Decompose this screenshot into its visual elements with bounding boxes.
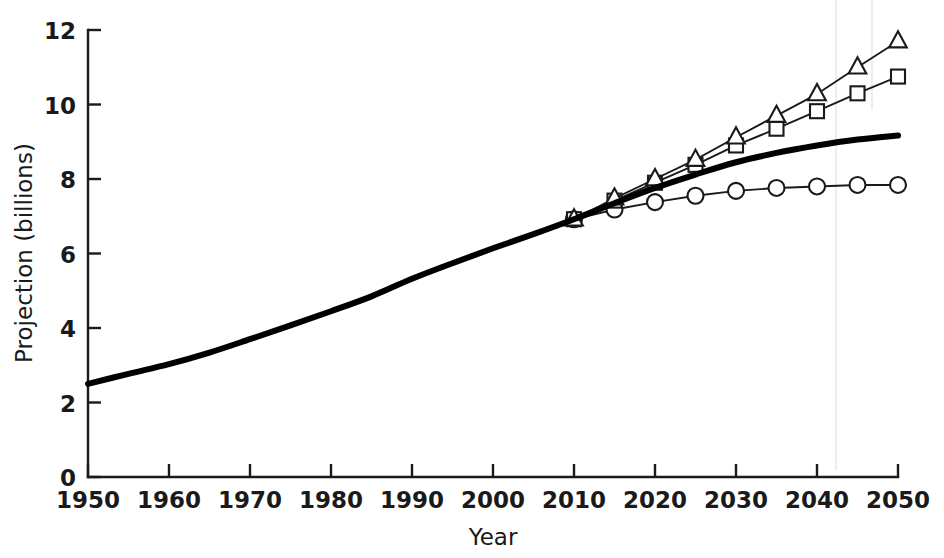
x-tick-label: 2000 <box>461 487 525 513</box>
x-tick-label: 2040 <box>785 487 849 513</box>
x-axis-tick-labels: 1950 1960 1970 1980 1990 2000 2010 2020 … <box>56 487 930 513</box>
data-point-triangle-marker <box>727 127 745 143</box>
data-point-square-marker <box>810 104 824 118</box>
data-point-triangle-marker <box>889 31 907 47</box>
y-tick-label: 12 <box>44 18 76 44</box>
y-tick-label: 4 <box>60 316 76 342</box>
x-tick-label: 2050 <box>866 487 930 513</box>
chart-container: 0 2 4 6 8 10 12 1950 1960 1970 1980 1990… <box>0 0 944 558</box>
axis-lines <box>88 30 898 477</box>
x-tick-label: 2030 <box>704 487 768 513</box>
data-point-circle-marker <box>647 194 663 210</box>
y-tick-label: 6 <box>60 242 76 268</box>
data-point-triangle-marker <box>768 106 786 122</box>
data-point-circle-marker <box>769 180 785 196</box>
data-point-triangle-marker <box>849 57 867 73</box>
x-tick-label: 1960 <box>137 487 201 513</box>
data-point-circle-marker <box>688 188 704 204</box>
y-axis-title: Projection (billions) <box>11 143 37 363</box>
x-tick-label: 2010 <box>542 487 606 513</box>
y-tick-label: 2 <box>60 391 76 417</box>
data-point-triangle-marker <box>808 84 826 100</box>
x-tick-label: 1950 <box>56 487 120 513</box>
data-point-circle-marker <box>890 177 906 193</box>
data-point-square-marker <box>851 86 865 100</box>
y-tick-label: 8 <box>60 167 76 193</box>
x-axis-ticks <box>88 464 898 477</box>
series-line <box>88 135 898 383</box>
data-point-circle-marker <box>809 178 825 194</box>
x-axis-title: Year <box>468 524 518 550</box>
y-axis-ticks <box>88 30 101 477</box>
y-tick-label: 10 <box>44 93 76 119</box>
data-point-square-marker <box>770 122 784 136</box>
x-tick-label: 2020 <box>623 487 687 513</box>
data-point-circle-marker <box>850 177 866 193</box>
x-tick-label: 1990 <box>380 487 444 513</box>
series-medium-projection <box>88 135 898 383</box>
data-point-circle-marker <box>728 183 744 199</box>
y-axis-tick-labels: 0 2 4 6 8 10 12 <box>44 18 76 491</box>
projection-line-chart: 0 2 4 6 8 10 12 1950 1960 1970 1980 1990… <box>0 0 944 558</box>
series-layer <box>88 31 907 384</box>
data-point-square-marker <box>891 70 905 84</box>
x-tick-label: 1970 <box>218 487 282 513</box>
x-tick-label: 1980 <box>299 487 363 513</box>
